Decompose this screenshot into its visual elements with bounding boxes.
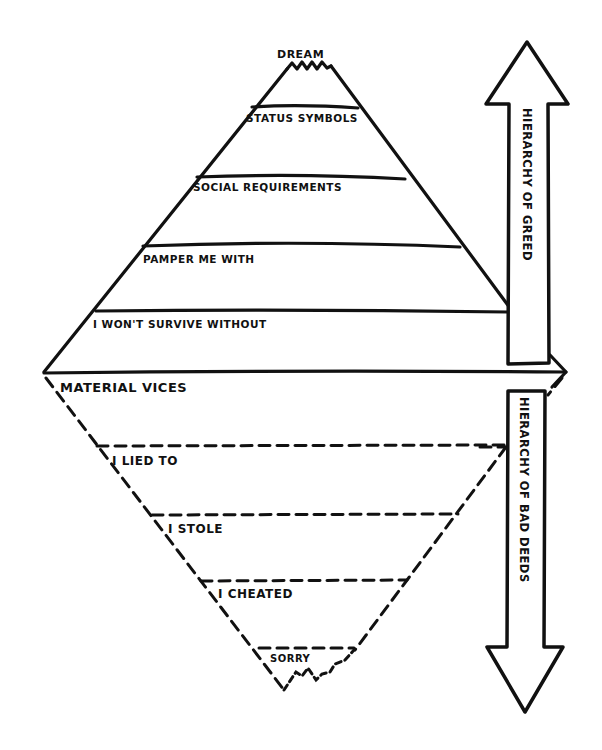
label-hierarchy-of-greed: HIERARCHY OF GREED — [520, 108, 534, 261]
hierarchy-of-bad-deeds-arrow: HIERARCHY OF BAD DEEDS — [487, 391, 563, 712]
level-line-i-cheated — [201, 580, 407, 581]
label-i-stole: I STOLE — [168, 522, 223, 536]
level-line-wont-survive-without — [96, 310, 508, 312]
level-line-status-symbols — [252, 106, 358, 108]
deeds-pyramid-right-edge-lower — [355, 447, 506, 650]
label-hierarchy-of-bad-deeds: HIERARCHY OF BAD DEEDS — [517, 397, 531, 583]
deeds-pyramid-right-edge — [548, 378, 562, 395]
label-social-requirements: SOCIAL REQUIREMENTS — [193, 181, 342, 193]
level-line-social-requirements — [197, 175, 405, 179]
pyramid-base-line — [44, 371, 566, 373]
label-i-lied-to: I LIED TO — [112, 454, 178, 468]
label-dream: DREAM — [277, 48, 324, 61]
label-material-vices: MATERIAL VICES — [60, 380, 187, 395]
level-line-pamper-me-with — [143, 243, 460, 247]
label-pamper-me-with: PAMPER ME WITH — [143, 253, 255, 265]
deeds-pyramid-left-edge — [46, 378, 284, 690]
label-status-symbols: STATUS SYMBOLS — [246, 112, 358, 124]
dream-peak-zigzag — [287, 62, 331, 69]
deeds-pyramid — [46, 378, 562, 690]
labels: DREAM STATUS SYMBOLS SOCIAL REQUIREMENTS… — [60, 48, 358, 664]
hierarchy-of-greed-arrow: HIERARCHY OF GREED — [486, 42, 568, 364]
greed-pyramid — [44, 62, 566, 387]
greed-and-deeds-diagram: DREAM STATUS SYMBOLS SOCIAL REQUIREMENTS… — [0, 0, 602, 750]
label-wont-survive-without: I WON'T SURVIVE WITHOUT — [93, 318, 267, 330]
label-sorry: SORRY — [270, 653, 311, 664]
label-i-cheated: I CHEATED — [218, 587, 293, 601]
level-line-i-stole — [152, 514, 458, 515]
level-line-i-lied-to — [97, 445, 507, 446]
